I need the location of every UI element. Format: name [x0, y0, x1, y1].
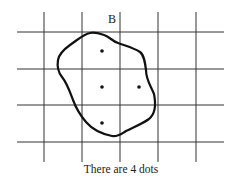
dot: [100, 49, 104, 53]
grid: [17, 12, 224, 162]
dot: [137, 85, 141, 89]
dot-counting-diagram: B There are 4 dots: [0, 0, 235, 185]
dot: [100, 121, 104, 125]
dot: [100, 85, 104, 89]
region-label-b: B: [108, 12, 116, 26]
caption: There are 4 dots: [84, 163, 159, 175]
blob-region-outline: [58, 33, 155, 137]
